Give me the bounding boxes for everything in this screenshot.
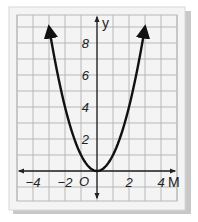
origin-label: O [79,174,89,189]
y-tick-label: 6 [82,68,90,83]
x-tick-label: 4 [157,175,164,190]
x-axis-label: M [168,174,180,190]
y-tick-label: 4 [82,100,89,115]
x-tick-label: −2 [58,175,74,190]
x-tick-label: 2 [124,175,133,190]
x-tick-label: −4 [26,175,41,190]
y-tick-label: 8 [82,36,90,51]
parabola-chart: −4−2242468OMy [0,0,198,222]
y-axis-label: y [102,15,109,31]
y-tick-label: 2 [81,132,90,147]
